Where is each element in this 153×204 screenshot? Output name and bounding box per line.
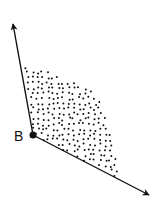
stipple-dot: [37, 87, 39, 89]
stipple-dot: [63, 107, 65, 109]
stipple-dot: [67, 107, 69, 109]
stipple-dot: [77, 86, 79, 88]
stipple-dot: [62, 134, 64, 136]
stipple-dot: [105, 134, 107, 136]
stipple-dot: [27, 82, 29, 84]
stipple-dot: [108, 160, 110, 162]
stipple-dot: [74, 87, 76, 89]
stipple-dot: [109, 134, 111, 136]
stipple-dot: [68, 92, 70, 94]
stipple-dot: [56, 76, 58, 78]
stipple-dot: [30, 104, 32, 106]
stipple-dot: [46, 138, 48, 140]
stipple-dot: [48, 125, 50, 127]
stipple-dot: [58, 107, 60, 109]
stipple-dot: [41, 104, 43, 106]
stipple-dot: [37, 111, 39, 113]
stipple-dot: [38, 109, 40, 111]
stipple-dot: [88, 112, 90, 114]
stipple-dot: [71, 117, 73, 119]
stipple-dot: [90, 153, 92, 155]
stipple-dot: [97, 106, 99, 108]
stipple-dot: [83, 143, 85, 145]
stipple-dot: [93, 98, 95, 100]
stipple-dot: [53, 124, 55, 126]
stipple-dot: [32, 81, 34, 83]
stipple-dot: [88, 102, 90, 104]
stipple-dot: [73, 134, 75, 136]
stipple-dot: [41, 76, 43, 78]
stipple-dot: [46, 82, 48, 84]
stipple-dot: [87, 96, 89, 98]
stipple-dot: [79, 129, 81, 131]
stipple-dot: [68, 86, 70, 88]
stipple-dot: [52, 138, 54, 140]
stipple-dot: [33, 71, 35, 73]
stipple-dot: [57, 102, 59, 104]
stipple-dot: [69, 143, 71, 145]
stipple-dot: [58, 144, 60, 146]
stipple-dot: [43, 119, 45, 121]
stipple-dot: [48, 119, 50, 121]
stipple-dot: [59, 113, 61, 115]
stipple-dot: [48, 97, 50, 99]
stipple-dot: [61, 119, 63, 121]
stipple-dot: [93, 124, 95, 126]
stipple-dot: [40, 71, 42, 73]
stipple-dot: [99, 134, 101, 136]
stipple-dot: [53, 117, 55, 119]
stipple-dot: [69, 117, 71, 119]
stipple-dot: [77, 140, 79, 142]
stipple-dot: [114, 158, 116, 160]
angle-diagram: B: [0, 0, 153, 204]
stipple-dot: [72, 130, 74, 132]
stipple-dot: [26, 71, 28, 73]
stippled-interior-region: [24, 67, 117, 177]
stipple-dot: [42, 92, 44, 94]
stipple-dot: [110, 166, 112, 168]
stipple-dot: [52, 114, 54, 116]
stipple-dot: [42, 128, 44, 130]
stipple-dot: [94, 145, 96, 147]
stipple-dot: [98, 122, 100, 124]
stipple-dot: [93, 138, 95, 140]
stipple-dot: [41, 97, 43, 99]
stipple-dot: [62, 87, 64, 89]
stipple-dot: [90, 106, 92, 108]
stipple-dot: [58, 135, 60, 137]
stipple-dot: [66, 139, 68, 141]
stipple-dot: [105, 166, 107, 168]
stipple-dot: [85, 155, 87, 157]
stipple-dot: [24, 67, 26, 69]
stipple-dot: [85, 88, 87, 90]
stipple-dot: [94, 130, 96, 132]
stipple-dot: [99, 139, 101, 141]
vertex-label-b: B: [14, 128, 23, 144]
stipple-dot: [48, 87, 50, 89]
stipple-dot: [102, 124, 104, 126]
stipple-dot: [105, 146, 107, 148]
stipple-dot: [37, 92, 39, 94]
stipple-dot: [43, 113, 45, 115]
stipple-dot: [56, 137, 58, 139]
stipple-dot: [83, 130, 85, 132]
stipple-dot: [73, 103, 75, 105]
stipple-dot: [84, 104, 86, 106]
stipple-dot: [41, 83, 43, 85]
stipple-dot: [53, 108, 55, 110]
stipple-dot: [37, 76, 39, 78]
stipple-dot: [106, 160, 108, 162]
stipple-dot: [66, 149, 68, 151]
stipple-dot: [78, 96, 80, 98]
stipple-dot: [73, 123, 75, 125]
stipple-dot: [42, 108, 44, 110]
stipple-dot: [88, 123, 90, 125]
stipple-dot: [67, 83, 69, 85]
stipple-dot: [79, 93, 81, 95]
stipple-dot: [78, 122, 80, 124]
stipple-dot: [63, 114, 65, 116]
stipple-dot: [83, 138, 85, 140]
stipple-dot: [27, 88, 29, 90]
stipple-dot: [41, 132, 43, 134]
lower-ray-arrow: [33, 135, 149, 195]
